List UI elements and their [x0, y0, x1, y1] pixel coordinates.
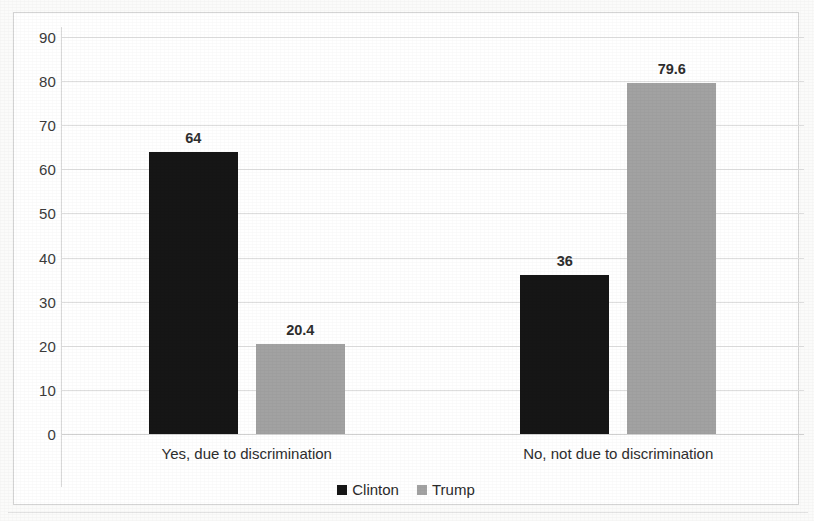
data-label-clinton-1: 36: [557, 253, 573, 269]
y-tick-label-40: 40: [20, 249, 56, 266]
bar-trump-0: [256, 344, 345, 434]
y-tick-label-30: 30: [20, 293, 56, 310]
y-axis: 9080706050403020100: [14, 37, 56, 434]
legend-item-trump[interactable]: Trump: [417, 481, 475, 498]
scan-edge-line: [8, 512, 808, 513]
y-tick-label-70: 70: [20, 117, 56, 134]
y-tick-label-90: 90: [20, 29, 56, 46]
bar-trump-1: [627, 83, 716, 434]
y-tick-label-10: 10: [20, 381, 56, 398]
bar-clinton-1: [520, 275, 609, 434]
legend-item-clinton[interactable]: Clinton: [337, 481, 399, 498]
y-tick-label-0: 0: [20, 426, 56, 443]
data-label-trump-0: 20.4: [286, 322, 314, 338]
bar-clinton-0: [149, 152, 238, 434]
gridline-0: [61, 434, 804, 435]
data-label-trump-1: 79.6: [658, 61, 686, 77]
y-tick-label-20: 20: [20, 337, 56, 354]
chart-legend: ClintonTrump: [14, 481, 798, 498]
legend-label: Clinton: [352, 481, 399, 498]
legend-swatch-icon-trump: [417, 485, 427, 495]
data-label-clinton-0: 64: [185, 130, 201, 146]
y-tick-label-50: 50: [20, 205, 56, 222]
legend-swatch-icon-clinton: [337, 485, 347, 495]
category-label-1: No, not due to discrimination: [523, 445, 713, 462]
chart-frame: 9080706050403020100 6420.43679.6 Yes, du…: [13, 12, 799, 505]
legend-label: Trump: [432, 481, 475, 498]
y-tick-label-60: 60: [20, 161, 56, 178]
scanned-page: 9080706050403020100 6420.43679.6 Yes, du…: [0, 0, 814, 521]
y-tick-label-80: 80: [20, 73, 56, 90]
plot-area: 6420.43679.6: [61, 37, 804, 434]
category-label-0: Yes, due to discrimination: [162, 445, 332, 462]
